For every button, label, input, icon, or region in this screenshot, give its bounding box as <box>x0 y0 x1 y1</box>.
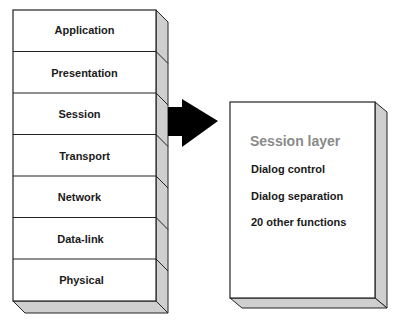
layer-presentation: Presentation <box>13 67 156 79</box>
function-item: Dialog control <box>251 163 325 175</box>
function-item: 20 other functions <box>251 216 346 228</box>
layer-session: Session <box>8 108 151 120</box>
layer-data-link: Data-link <box>9 233 152 245</box>
detail-box-side <box>375 102 387 308</box>
detail-box-title: Session layer <box>250 133 340 149</box>
layer-physical: Physical <box>10 274 153 286</box>
arrow-right-icon <box>168 99 218 147</box>
layer-application: Application <box>13 24 156 36</box>
stack-side <box>156 10 168 313</box>
layer-network: Network <box>8 191 151 203</box>
layer-transport: Transport <box>13 150 156 162</box>
detail-box-bottom <box>230 298 387 308</box>
stack-bottom <box>13 301 168 313</box>
function-item: Dialog separation <box>251 190 343 202</box>
